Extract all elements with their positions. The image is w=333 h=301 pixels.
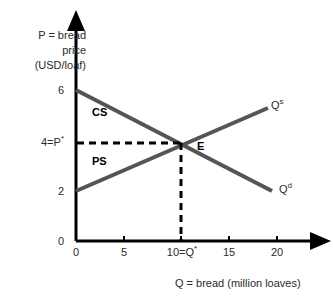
x-tick-label-10-superscript: * xyxy=(194,244,197,253)
x-axis-caption: Q = bread (million loaves) xyxy=(175,277,301,289)
demand-curve-label-superscript: d xyxy=(288,181,292,190)
x-tick-label-5: 5 xyxy=(111,246,137,259)
consumer-surplus-label: CS xyxy=(92,106,107,119)
supply-curve xyxy=(76,108,268,191)
equilibrium-point-label: E xyxy=(197,140,204,153)
x-tick-label-20: 20 xyxy=(264,246,290,259)
y-tick-label-2: 2 xyxy=(30,185,64,198)
y-tick-label-0: 0 xyxy=(30,235,64,248)
x-tick-label-0: 0 xyxy=(63,246,89,259)
supply-demand-chart: P = bread price (USD/loaf) Q = bread (mi… xyxy=(0,0,333,301)
demand-curve-label: Qd xyxy=(279,183,292,196)
y-axis-caption-line-1: P = bread xyxy=(6,28,86,43)
x-tick-label-10: 10=Q* xyxy=(156,246,208,259)
y-tick-label-6: 6 xyxy=(30,84,64,97)
supply-curve-label-superscript: s xyxy=(280,97,284,106)
supply-curve-label: Qs xyxy=(271,99,284,112)
x-tick-label-15: 15 xyxy=(216,246,242,259)
demand-curve-label-text: Q xyxy=(279,183,288,195)
x-tick-label-10-text: 10=Q xyxy=(167,246,194,258)
y-tick-label-4-text: 4=P xyxy=(41,136,61,148)
producer-surplus-label: PS xyxy=(92,155,107,168)
y-tick-label-4: 4=P* xyxy=(14,136,64,149)
y-tick-label-4-superscript: * xyxy=(61,134,64,143)
y-axis-caption: P = bread price (USD/loaf) xyxy=(6,28,86,73)
y-axis-caption-line-2: price xyxy=(6,43,86,58)
supply-curve-label-text: Q xyxy=(271,99,280,111)
y-axis-caption-line-3: (USD/loaf) xyxy=(6,58,86,73)
